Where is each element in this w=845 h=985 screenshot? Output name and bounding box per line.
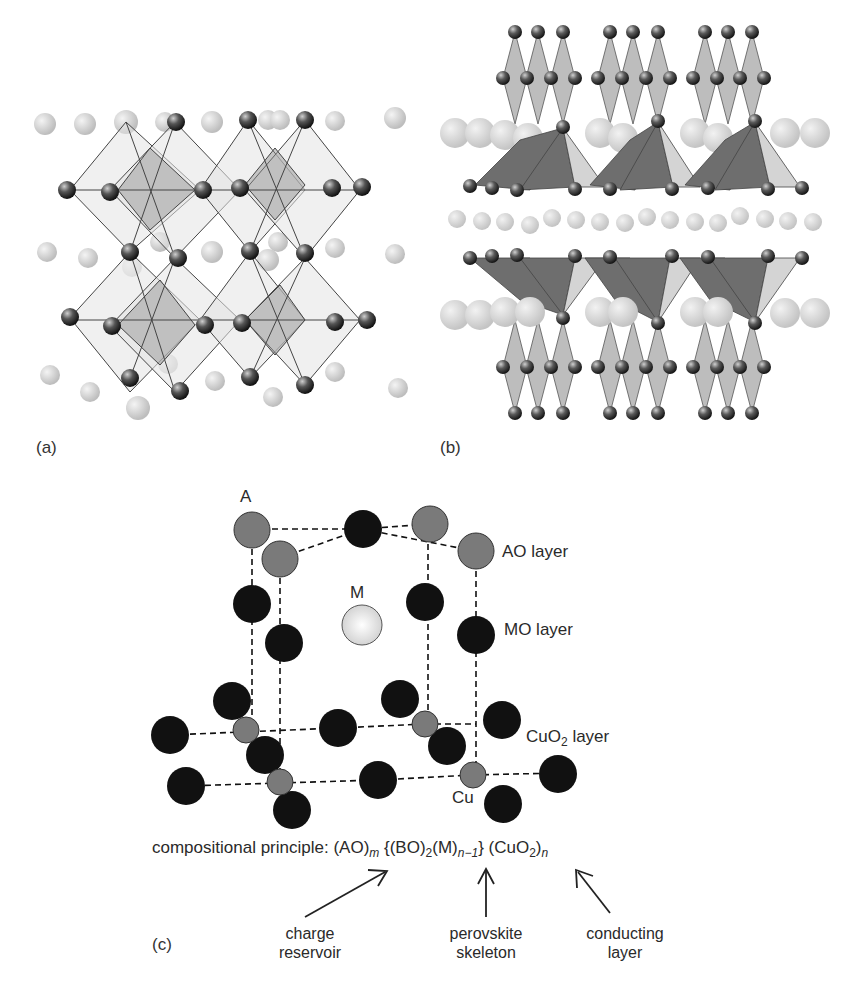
arrow-conducting-layer-icon <box>578 872 610 913</box>
annotation-charge-reservoir: charge reservoir <box>255 924 365 962</box>
panel-c-label: (c) <box>152 935 172 955</box>
annotation-perovskite-skeleton: perovskite skeleton <box>431 924 541 962</box>
arrow-charge-reservoir-icon <box>305 872 385 917</box>
annotation-arrows <box>0 0 845 985</box>
annotation-conducting-layer: conducting layer <box>570 924 680 962</box>
